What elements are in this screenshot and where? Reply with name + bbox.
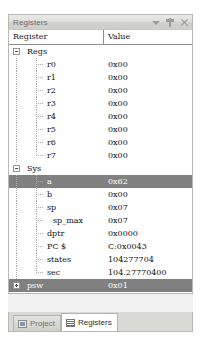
tree-guide-line (36, 194, 44, 195)
table-row[interactable]: Sys (9, 162, 192, 175)
tree-guide-line (36, 220, 44, 221)
chevron-down-icon[interactable] (152, 18, 160, 27)
tab-registers[interactable]: Registers (61, 313, 118, 331)
tree-guide-line (16, 110, 17, 123)
table-row[interactable]: r00x00 (9, 58, 192, 71)
collapse-node-icon[interactable] (13, 48, 20, 55)
tree-guide-line (16, 188, 17, 201)
tab-registers-label: Registers (78, 318, 112, 327)
register-value-cell[interactable]: 0x00 (104, 136, 192, 149)
tree-guide-line (16, 214, 17, 227)
register-name-cell: sec (9, 266, 104, 279)
panel-title: Registers (9, 18, 152, 27)
tree-guide-line (36, 155, 44, 156)
project-icon (18, 320, 27, 328)
table-row[interactable]: states104277704 (9, 253, 192, 266)
register-value-cell[interactable]: 0x00 (104, 110, 192, 123)
register-name-cell: r4 (9, 110, 104, 123)
tree-guide-line (36, 116, 44, 117)
column-header-value[interactable]: Value (104, 30, 192, 44)
table-row[interactable]: r70x00 (9, 149, 192, 162)
table-row[interactable]: r30x00 (9, 97, 192, 110)
tree-guide-line (36, 77, 44, 78)
collapse-node-icon[interactable] (13, 165, 20, 172)
table-row[interactable]: Regs (9, 45, 192, 58)
register-name-cell: PC $ (9, 240, 104, 253)
tree-guide-line (36, 246, 44, 247)
column-header-register[interactable]: Register (9, 30, 104, 44)
register-name-cell: r6 (9, 136, 104, 149)
table-row[interactable]: PC $C:0x0043 (9, 240, 192, 253)
table-row[interactable]: sp0x07 (9, 201, 192, 214)
table-row[interactable]: r60x00 (9, 136, 192, 149)
register-value-cell[interactable]: 0x00 (104, 188, 192, 201)
tab-project-label: Project (30, 319, 55, 328)
tree-guide-line (36, 259, 44, 260)
register-value-cell[interactable]: C:0x0043 (104, 240, 192, 253)
tree-guide-line (16, 201, 17, 214)
register-value-cell[interactable]: 0x00 (104, 97, 192, 110)
table-row[interactable]: sec104.27770400 (9, 266, 192, 279)
table-row[interactable]: r40x00 (9, 110, 192, 123)
register-name-cell: b (9, 188, 104, 201)
tree-guide-line (16, 266, 17, 279)
register-name-cell: r5 (9, 123, 104, 136)
table-row[interactable]: sp_max0x07 (9, 214, 192, 227)
auto-hide-pin-icon[interactable] (166, 18, 174, 27)
registers-panel-screenshot: Registers Register Value Regsr00x00r10x0… (0, 0, 202, 345)
register-value-cell[interactable]: 104277704 (104, 253, 192, 266)
register-value-cell[interactable]: 0x07 (104, 214, 192, 227)
register-value-cell[interactable]: 0x01 (104, 279, 192, 292)
table-row[interactable]: a0x62 (9, 175, 192, 188)
registers-grid: Register Value Regsr00x00r10x00r20x00r30… (8, 29, 193, 294)
register-name-cell: r3 (9, 97, 104, 110)
register-name-cell: a (9, 175, 104, 188)
register-value-cell[interactable]: 0x00 (104, 71, 192, 84)
register-name-cell: r0 (9, 58, 104, 71)
table-row[interactable]: b0x00 (9, 188, 192, 201)
table-row[interactable]: dptr0x0000 (9, 227, 192, 240)
register-name-cell: r2 (9, 84, 104, 97)
grid-header-row: Register Value (9, 30, 192, 45)
register-name-cell: r1 (9, 71, 104, 84)
expand-node-icon[interactable] (13, 282, 20, 289)
register-value-cell[interactable]: 0x62 (104, 175, 192, 188)
tree-guide-line (16, 136, 17, 149)
tree-guide-line (16, 240, 17, 253)
register-name-label: sp_max (9, 214, 83, 227)
panel-tabstrip: Project Registers (8, 312, 193, 332)
register-value-cell[interactable]: 104.27770400 (104, 266, 192, 279)
register-name-cell: sp_max (9, 214, 104, 227)
register-name-cell: sp (9, 201, 104, 214)
table-row[interactable]: r50x00 (9, 123, 192, 136)
registers-docked-panel: Registers Register Value Regsr00x00r10x0… (8, 14, 193, 330)
register-value-cell[interactable]: 0x00 (104, 123, 192, 136)
register-name-cell: dptr (9, 227, 104, 240)
tree-guide-line (16, 227, 17, 240)
titlebar-buttons (152, 18, 192, 27)
table-row[interactable]: r20x00 (9, 84, 192, 97)
register-value-cell[interactable]: 0x00 (104, 84, 192, 97)
table-row[interactable]: r10x00 (9, 71, 192, 84)
tree-guide-line (36, 103, 44, 104)
panel-titlebar[interactable]: Registers (8, 14, 193, 29)
tree-guide-line (36, 233, 44, 234)
tree-guide-line (36, 181, 44, 182)
register-value-cell[interactable]: 0x00 (104, 149, 192, 162)
tree-guide-line (16, 58, 17, 71)
register-value-cell[interactable]: 0x00 (104, 58, 192, 71)
tree-guide-line (16, 175, 17, 188)
registers-icon (66, 319, 75, 327)
register-value-cell[interactable]: 0x0000 (104, 227, 192, 240)
close-icon[interactable] (180, 18, 188, 27)
register-name-cell: states (9, 253, 104, 266)
tree-guide-line (16, 84, 17, 97)
register-value-cell[interactable]: 0x07 (104, 201, 192, 214)
register-name-cell: Sys (9, 162, 104, 175)
register-name-cell: r7 (9, 149, 104, 162)
tree-guide-line (16, 123, 17, 136)
tree-guide-line (36, 272, 44, 273)
table-row[interactable]: psw0x01 (9, 279, 192, 292)
tab-project[interactable]: Project (13, 315, 61, 331)
tree-guide-line (16, 253, 17, 266)
